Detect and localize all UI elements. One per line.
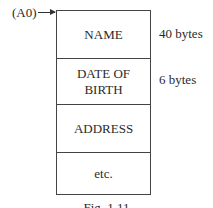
field-etc: etc. [57, 152, 150, 195]
field-name: NAME [57, 11, 150, 58]
field-size-date-of-birth: 6 bytes [159, 73, 196, 87]
address-register-label: (A0) [12, 6, 37, 20]
figure-caption: Fig. 1.11 [0, 201, 213, 208]
field-address: ADDRESS [57, 104, 150, 152]
field-size-name: 40 bytes [159, 27, 203, 41]
pointer-arrow-icon [38, 12, 55, 13]
field-date-of-birth: DATE OF BIRTH [57, 58, 150, 104]
field-label: ADDRESS [74, 121, 133, 137]
field-label: DATE OF BIRTH [77, 66, 130, 98]
field-label: etc. [94, 166, 112, 182]
field-label: NAME [84, 27, 122, 43]
record-structure: NAME DATE OF BIRTH ADDRESS etc. [56, 10, 151, 195]
